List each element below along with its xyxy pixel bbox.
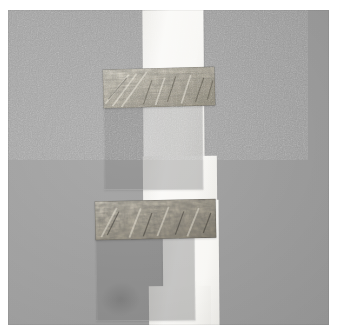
- textured-band-lower: [95, 199, 217, 241]
- texture-pattern-upper: [102, 66, 215, 108]
- texture-pattern-lower: [95, 199, 217, 241]
- photograph: [8, 10, 329, 325]
- textured-band-upper: [102, 66, 215, 108]
- translucent-square-upper: [104, 103, 204, 191]
- translucent-square-lower: [96, 234, 196, 322]
- image-canvas: [0, 0, 337, 335]
